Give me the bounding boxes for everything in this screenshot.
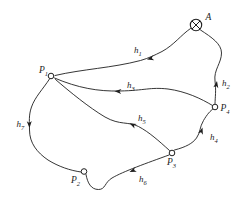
node-P2-marker <box>81 169 87 175</box>
node-A-label-text: A <box>205 12 212 22</box>
edge-h2 <box>201 30 222 104</box>
graph-svg: A P1 P2 P3 P4 h1 h2 h3 h4 h5 h6 <box>0 0 243 205</box>
node-P4-label: P4 <box>220 103 231 115</box>
node-P3-label: P3 <box>166 157 177 169</box>
node-P2-label: P2 <box>70 175 81 187</box>
edge-h1 <box>55 29 191 76</box>
edge-h3 <box>55 78 213 106</box>
edge-h1-label: h1 <box>134 45 142 57</box>
edge-h7-label-sub: 7 <box>21 124 25 131</box>
node-P3-marker <box>169 150 175 156</box>
edge-h2-label-sub: 2 <box>227 83 231 90</box>
edge-h4-label: h4 <box>210 132 219 144</box>
edge-h6-arrowhead <box>129 167 137 174</box>
node-P2-label-sub: 2 <box>77 180 81 187</box>
node-P1-marker <box>48 73 54 79</box>
edge-h5-label-sub: 5 <box>143 118 147 125</box>
edge-h2-arrowhead <box>213 81 219 89</box>
edge-h3-label: h3 <box>127 80 136 92</box>
edge-h5 <box>56 80 170 151</box>
node-A-marker <box>190 19 201 30</box>
edge-h4 <box>175 109 214 150</box>
edge-h6-label: h6 <box>139 174 148 186</box>
node-P1-label: P1 <box>38 65 48 77</box>
edge-h7 <box>29 79 81 172</box>
node-P1-label-sub: 1 <box>45 70 48 77</box>
node-A-label: A <box>205 12 212 22</box>
graph-figure: A P1 P2 P3 P4 h1 h2 h3 h4 h5 h6 <box>0 0 243 205</box>
edge-h6-label-sub: 6 <box>144 179 148 186</box>
node-P3-label-sub: 3 <box>172 162 177 169</box>
edge-h5-label: h5 <box>138 113 147 125</box>
edge-h4-label-sub: 4 <box>215 137 219 144</box>
edge-h7-label: h7 <box>17 119 26 131</box>
edge-h2-label: h2 <box>222 78 231 90</box>
node-P4-marker <box>212 104 218 110</box>
edge-h1-label-sub: 1 <box>139 50 142 57</box>
edge-h6 <box>86 155 169 190</box>
node-P4-label-sub: 4 <box>226 108 230 115</box>
edge-h1-arrowhead <box>146 55 154 62</box>
